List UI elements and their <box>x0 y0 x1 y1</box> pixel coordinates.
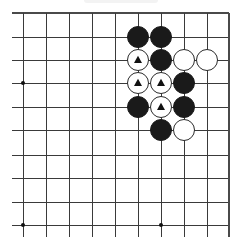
black-stone <box>174 97 195 118</box>
black-stone-icon <box>128 97 149 118</box>
black-stone-icon <box>128 27 149 48</box>
white-stone <box>174 120 195 141</box>
black-stone-icon <box>151 27 172 48</box>
black-stone-icon <box>151 50 172 71</box>
black-stone <box>128 97 149 118</box>
black-stone <box>174 73 195 94</box>
black-stone-icon <box>151 120 172 141</box>
star-point-icon <box>21 81 25 85</box>
white-stone <box>151 73 172 94</box>
black-stone <box>128 27 149 48</box>
black-stone-icon <box>174 73 195 94</box>
star-point-icon <box>159 223 163 227</box>
board-grid <box>12 13 229 237</box>
white-stone <box>151 97 172 118</box>
go-board <box>0 0 236 243</box>
white-stone <box>174 50 195 71</box>
white-stone <box>128 50 149 71</box>
white-stone <box>197 50 218 71</box>
white-stone-icon <box>174 120 195 141</box>
black-stone-icon <box>174 97 195 118</box>
white-stone-icon <box>174 50 195 71</box>
black-stone <box>151 50 172 71</box>
white-stone <box>128 73 149 94</box>
black-stone <box>151 27 172 48</box>
star-point-icon <box>21 223 25 227</box>
white-stone-icon <box>197 50 218 71</box>
black-stone <box>151 120 172 141</box>
